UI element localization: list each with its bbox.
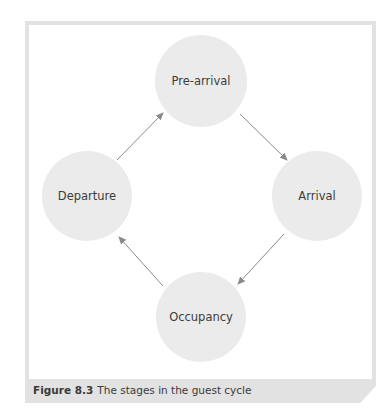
node-departure: Departure xyxy=(42,151,132,241)
node-label: Departure xyxy=(58,189,116,203)
figure-number: Figure 8.3 xyxy=(33,384,93,396)
node-label: Occupancy xyxy=(169,310,233,324)
arrow-arrival-to-occupancy xyxy=(238,234,284,284)
figure-caption: Figure 8.3The stages in the guest cycle xyxy=(33,384,251,396)
node-pre-arrival: Pre-arrival xyxy=(155,35,247,127)
figure-caption-bar: Figure 8.3The stages in the guest cycle xyxy=(25,379,376,403)
arrow-prearrival-to-arrival xyxy=(240,114,287,160)
node-arrival: Arrival xyxy=(272,151,362,241)
node-label: Pre-arrival xyxy=(172,74,231,88)
node-occupancy: Occupancy xyxy=(156,272,246,362)
arrow-departure-to-prearrival xyxy=(117,113,163,160)
guest-cycle-diagram: Pre-arrival Arrival Occupancy Departure xyxy=(0,0,391,417)
arrow-occupancy-to-departure xyxy=(119,237,163,286)
figure-caption-text: The stages in the guest cycle xyxy=(97,384,251,396)
node-label: Arrival xyxy=(298,189,335,203)
